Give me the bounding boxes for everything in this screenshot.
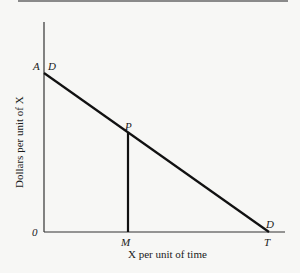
label-t: T — [264, 236, 271, 248]
label-p: P — [124, 120, 132, 132]
label-origin: 0 — [32, 226, 38, 238]
y-axis-title: Dollars per unit of X — [13, 96, 25, 188]
demand-line — [44, 73, 269, 232]
label-a: A — [32, 60, 40, 72]
demand-diagram: A D P D 0 M T X per unit of time Dollars… — [0, 0, 300, 273]
label-d-bottom: D — [265, 218, 274, 230]
label-d-top: D — [47, 60, 56, 72]
label-m: M — [120, 236, 131, 248]
x-axis-title: X per unit of time — [128, 248, 207, 260]
